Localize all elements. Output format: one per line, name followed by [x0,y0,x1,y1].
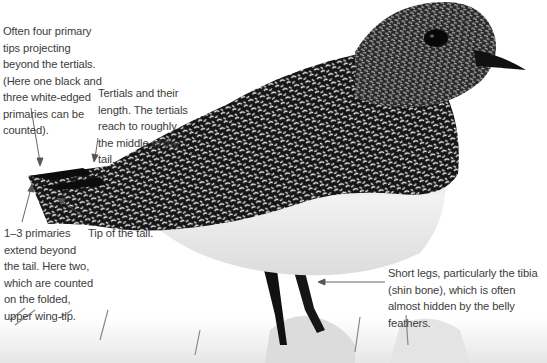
bird-eye [424,29,448,47]
annotated-bird-figure: Often four primary tips projecting beyon… [0,0,547,363]
annotation-primaries-projection: Often four primary tips projecting beyon… [3,23,108,139]
annotation-tail-tip: Tip of the tail. [88,225,158,242]
annotation-tertials: Tertials and their length. The tertials … [98,85,193,168]
annotation-primaries-beyond-tail: 1–3 primaries extend beyond the tail. He… [4,225,94,324]
annotation-short-legs: Short legs, particularly the tibia (shin… [388,265,546,331]
